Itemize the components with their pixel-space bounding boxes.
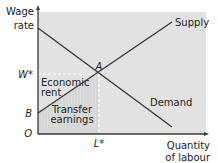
transfer-earnings-label-2: earnings (50, 114, 93, 125)
x-axis-label: Quantity (167, 140, 210, 151)
l-star-label: L* (94, 138, 105, 149)
supply-label: Supply (175, 17, 209, 28)
point-a-label: A (95, 61, 103, 72)
x-axis-arrow-icon (204, 132, 209, 136)
origin-label: O (24, 128, 32, 139)
w-star-label: W* (18, 69, 33, 80)
y-axis-label: Wage (6, 6, 34, 17)
x-axis-label-2: of labour (165, 152, 211, 163)
y-axis-arrow-icon (36, 5, 40, 10)
demand-label: Demand (150, 97, 192, 108)
y-axis-label-2: rate (14, 20, 34, 31)
b-label: B (25, 108, 32, 119)
economic-rent-label-2: rent (41, 87, 61, 98)
labour-market-diagram: Wage rate W* B O L* A Supply Demand Econ… (0, 0, 218, 163)
